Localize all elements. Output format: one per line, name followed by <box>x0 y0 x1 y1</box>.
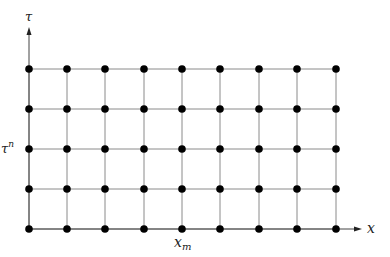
grid-node <box>178 225 186 233</box>
grid-node <box>293 105 301 113</box>
grid-node <box>25 145 33 153</box>
grid-node <box>332 105 340 113</box>
tau-axis-label: τ <box>25 9 33 24</box>
axes <box>27 27 363 232</box>
grid-node <box>25 105 33 113</box>
grid-node <box>255 65 263 73</box>
grid-node <box>293 65 301 73</box>
grid-node <box>25 225 33 233</box>
row-label-superscript: n <box>8 139 14 149</box>
grid-node <box>255 145 263 153</box>
grid-node <box>101 145 109 153</box>
x-axis-arrow-icon <box>354 227 362 232</box>
grid-node <box>178 145 186 153</box>
grid-node <box>293 185 301 193</box>
grid-node <box>255 225 263 233</box>
grid-node <box>216 65 224 73</box>
grid-node <box>140 105 148 113</box>
row-label-tau-n: τn <box>1 139 14 156</box>
grid-node <box>63 185 71 193</box>
grid-node <box>216 225 224 233</box>
col-label-subscript: m <box>182 241 191 252</box>
grid-node <box>25 185 33 193</box>
grid-node <box>293 225 301 233</box>
x-axis-label: x <box>367 220 375 236</box>
col-label-x-m: xm <box>174 234 191 252</box>
grid-node <box>178 105 186 113</box>
grid-node <box>293 145 301 153</box>
grid-node <box>101 185 109 193</box>
grid-node <box>255 105 263 113</box>
grid-node <box>25 65 33 73</box>
grid-node <box>216 185 224 193</box>
grid-node <box>63 105 71 113</box>
grid-node <box>178 65 186 73</box>
grid-node <box>332 145 340 153</box>
grid-node <box>140 145 148 153</box>
grid-node <box>101 65 109 73</box>
grid-node <box>140 185 148 193</box>
col-label-base: x <box>174 234 182 250</box>
grid-node <box>255 185 263 193</box>
grid-node <box>101 225 109 233</box>
grid-diagram: τ x τn xm <box>0 0 390 257</box>
grid-node <box>178 185 186 193</box>
grid-node <box>216 145 224 153</box>
grid-node <box>332 225 340 233</box>
tau-axis-arrow-icon <box>27 27 32 35</box>
grid-node <box>63 65 71 73</box>
grid-node <box>332 185 340 193</box>
grid-node <box>63 225 71 233</box>
grid-node <box>101 105 109 113</box>
grid-node <box>332 65 340 73</box>
grid-node <box>63 145 71 153</box>
grid-node <box>216 105 224 113</box>
grid-node <box>140 65 148 73</box>
grid-node <box>140 225 148 233</box>
